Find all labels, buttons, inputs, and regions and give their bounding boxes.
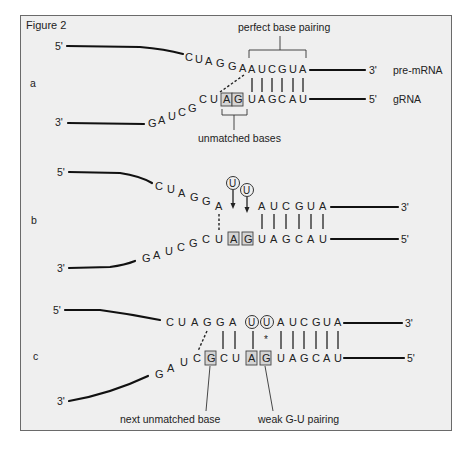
base: G — [155, 368, 164, 380]
base: G — [216, 316, 225, 328]
base: U — [165, 245, 173, 257]
base: U — [178, 316, 186, 328]
base: C — [178, 106, 186, 118]
next-unmatched-base-label: next unmatched base — [120, 413, 221, 425]
base: U — [258, 63, 266, 75]
base: U — [258, 233, 266, 245]
base: A — [248, 352, 256, 364]
top-5prime: 5' — [57, 166, 65, 178]
pointer-line — [265, 366, 273, 411]
inserted-base: U — [243, 185, 250, 196]
base: U — [299, 93, 307, 105]
rna-editing-diagram: Figure 2 a 5' C U A G G A A U C G U A 3'… — [0, 0, 465, 454]
arrow-down-icon — [245, 207, 250, 213]
arrow-down-icon — [231, 203, 236, 209]
weak-gu-pairing-label: weak G-U pairing — [257, 413, 339, 425]
inserted-base: U — [229, 178, 236, 189]
base: C — [177, 241, 185, 253]
top-3prime: 3' — [401, 201, 409, 213]
base: G — [300, 352, 309, 364]
base: U — [263, 317, 270, 328]
top-strand-left — [65, 310, 160, 320]
base: A — [205, 55, 213, 67]
base: C — [268, 63, 276, 75]
bottom-5prime: 5' — [407, 352, 415, 364]
base: U — [323, 316, 331, 328]
base: G — [278, 63, 287, 75]
bottom-5prime: 5' — [401, 233, 409, 245]
base: A — [167, 362, 175, 374]
base: U — [334, 352, 342, 364]
bottom-3prime: 3' — [57, 395, 65, 407]
panel-b: b 5' C U A G G A U U A U C G U A 3' — [31, 166, 409, 274]
base: C — [193, 352, 201, 364]
base: C — [312, 352, 320, 364]
panel-c: c 5' C U A G G A U U A U C G U A 3' — [33, 304, 415, 425]
base: A — [178, 187, 186, 199]
base: C — [166, 316, 174, 328]
base: U — [277, 352, 285, 364]
base: A — [229, 316, 237, 328]
perfect-base-pairing-label: perfect base pairing — [238, 21, 330, 33]
base: A — [323, 352, 331, 364]
top-sequence: C U A G G A U U A U C G U A — [166, 316, 342, 329]
base: A — [239, 62, 247, 74]
bottom-strand-left — [69, 261, 135, 268]
base: U — [248, 93, 256, 105]
bottom-strand-left — [69, 376, 148, 401]
base: G — [203, 316, 212, 328]
perfect-pairing-bracket — [249, 36, 306, 58]
base: A — [191, 316, 199, 328]
pre-mrna-label: pre-mRNA — [393, 64, 443, 76]
base: C — [199, 93, 207, 105]
base: A — [230, 233, 238, 245]
top-5prime: 5' — [53, 304, 61, 316]
base: A — [289, 93, 297, 105]
base: C — [278, 93, 286, 105]
bottom-sequence: G A U C G C U A G U A G C A U — [155, 351, 342, 380]
figure-title: Figure 2 — [26, 19, 66, 31]
base: A — [307, 233, 315, 245]
base: C — [185, 51, 193, 63]
base: A — [223, 93, 231, 105]
base-pair-lines — [252, 78, 303, 92]
top-3prime: 3' — [405, 317, 413, 329]
base-pair-lines — [262, 214, 323, 229]
bottom-5prime: 5' — [369, 93, 377, 105]
panel-label-c: c — [33, 350, 38, 362]
base: U — [248, 317, 255, 328]
base: A — [289, 352, 297, 364]
base-pair-lines — [223, 331, 338, 349]
panel-a: a 5' C U A G G A A U C G U A 3' pre-mRNA… — [30, 21, 443, 144]
base: G — [142, 252, 151, 264]
base: U — [210, 93, 218, 105]
base: G — [268, 93, 277, 105]
base: U — [167, 183, 175, 195]
base: G — [190, 191, 199, 203]
panel-label-b: b — [31, 214, 37, 226]
top-strand-left — [69, 172, 152, 183]
base: U — [289, 316, 297, 328]
base: C — [295, 233, 303, 245]
base: G — [188, 102, 197, 114]
base: C — [220, 352, 228, 364]
bottom-3prime: 3' — [57, 262, 65, 274]
base: G — [216, 57, 225, 69]
base: C — [300, 316, 308, 328]
base: A — [248, 63, 256, 75]
pre-mrna-strand-left — [67, 46, 183, 54]
unmatched-bases-label: unmatched bases — [198, 132, 281, 144]
base: A — [158, 114, 166, 126]
base: U — [180, 356, 188, 368]
bottom-3prime: 3' — [55, 116, 63, 128]
base: C — [155, 180, 163, 192]
base: U — [215, 233, 223, 245]
base: A — [277, 316, 285, 328]
base: C — [202, 233, 210, 245]
base: U — [232, 352, 240, 364]
base: U — [319, 233, 327, 245]
base: G — [189, 237, 198, 249]
base: G — [234, 93, 243, 105]
pointer-line — [206, 366, 210, 411]
base: A — [334, 316, 342, 328]
